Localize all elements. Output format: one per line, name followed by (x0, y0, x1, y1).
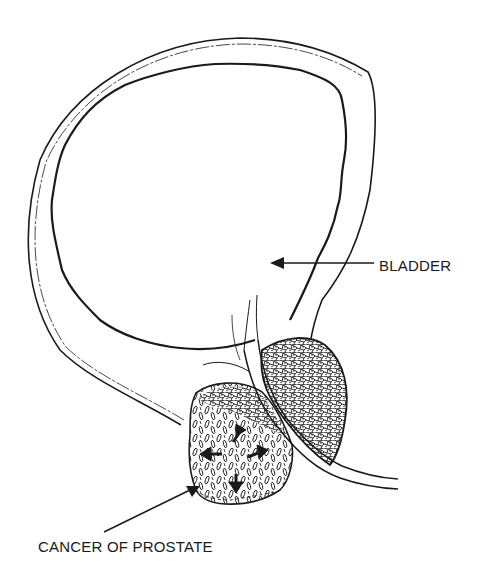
cancer-pointer-arrow (104, 486, 200, 532)
bladder-inner-mucosa (52, 64, 347, 349)
bladder-pointer-arrow (270, 257, 374, 269)
diagram-canvas: BLADDER CANCER OF PROSTATE (0, 0, 481, 576)
bladder-label: BLADDER (379, 257, 451, 274)
cancer-of-prostate-label: CANCER OF PROSTATE (38, 538, 213, 555)
